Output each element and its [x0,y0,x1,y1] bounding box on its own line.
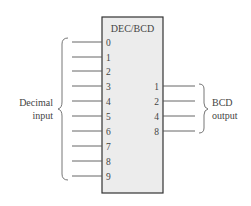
block-title: DEC/BCD [111,23,154,34]
output-pin-4: 4 [154,112,159,122]
output-pin-2: 2 [154,97,159,107]
input-pin-3: 3 [106,82,111,92]
input-pin-9: 9 [106,172,111,182]
bcd-label: BCD [212,97,233,108]
input-pin-7: 7 [106,142,111,152]
decimal-label: Decimal [19,97,53,108]
input-pin-1: 1 [106,53,111,63]
decimal-to-bcd-encoder-diagram: DEC/BCD 0 1 2 3 4 5 6 7 8 9 1 2 4 8 [0,0,251,206]
output-brace [199,84,208,133]
input-pin-8: 8 [106,157,111,167]
output-pin-8: 8 [154,127,159,137]
input-pin-5: 5 [106,112,111,122]
output-label: output [212,110,238,121]
input-pin-6: 6 [106,127,111,137]
output-pin-1: 1 [154,82,159,92]
input-label: input [32,110,53,121]
input-pin-2: 2 [106,67,111,77]
output-lines [163,86,195,131]
input-lines [72,42,102,176]
input-pin-4: 4 [106,97,111,107]
input-brace [58,38,68,180]
input-pin-0: 0 [106,38,111,48]
